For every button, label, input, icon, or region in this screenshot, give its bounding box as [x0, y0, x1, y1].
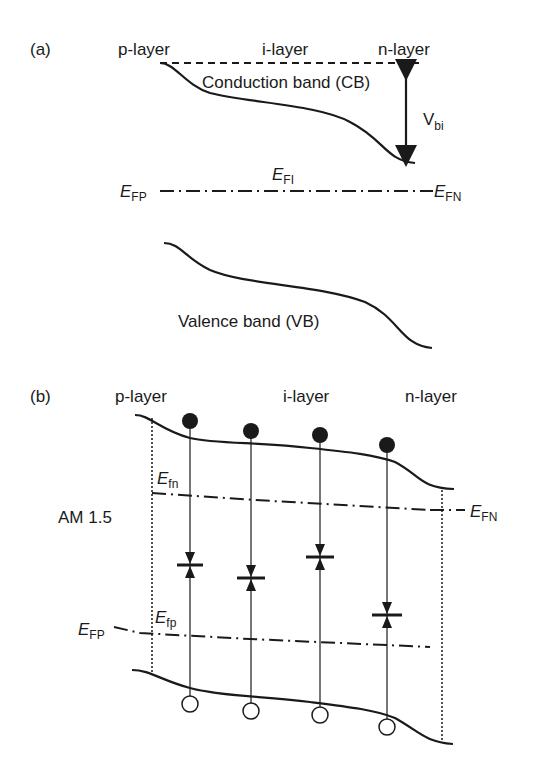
valence-band-label: Valence band (VB)	[178, 312, 319, 331]
i-layer-label-b: i-layer	[283, 387, 330, 406]
p-layer-label-b: p-layer	[115, 387, 167, 406]
panel-a-label: (a)	[30, 40, 51, 59]
hole-icon	[243, 703, 259, 719]
efn-quasi-label: Efn	[157, 469, 178, 491]
panel-a: (a) p-layer i-layer n-layer Conduction b…	[30, 40, 461, 348]
valence-band-curve	[164, 243, 432, 348]
hole-icon	[312, 707, 328, 723]
efp-label-b: EFP	[78, 620, 105, 642]
carrier-column-4	[372, 437, 402, 735]
efn-label-b: EFN	[470, 502, 497, 524]
conduction-band-label: Conduction band (CB)	[202, 73, 370, 92]
electron-icon	[182, 413, 198, 429]
hole-icon	[182, 696, 198, 712]
electron-icon	[243, 423, 259, 439]
p-layer-label: p-layer	[118, 40, 170, 59]
quasi-fermi-electron-line	[152, 493, 430, 510]
carrier-column-1	[177, 413, 203, 712]
efp-label: EFP	[120, 182, 147, 204]
quasi-fermi-hole-line	[114, 627, 430, 647]
electron-icon	[312, 427, 328, 443]
panel-b-label: (b)	[30, 387, 51, 406]
valence-band-curve-b	[132, 670, 453, 744]
electron-icon	[379, 437, 395, 453]
efi-label: EFI	[272, 165, 294, 187]
hole-icon	[379, 719, 395, 735]
carrier-column-3	[306, 427, 334, 723]
band-diagram: (a) p-layer i-layer n-layer Conduction b…	[0, 0, 539, 780]
conduction-band-curve-b	[135, 415, 454, 489]
efp-quasi-label: Efp	[155, 608, 177, 630]
panel-b: (b) p-layer i-layer n-layer Efn EFN AM 1…	[30, 387, 497, 744]
vbi-label: Vbi	[423, 110, 444, 133]
am15-label: AM 1.5	[58, 508, 112, 527]
i-layer-label: i-layer	[262, 40, 309, 59]
n-layer-label: n-layer	[378, 40, 430, 59]
efn-label: EFN	[434, 182, 461, 204]
n-layer-label-b: n-layer	[405, 387, 457, 406]
carrier-column-2	[237, 423, 265, 719]
